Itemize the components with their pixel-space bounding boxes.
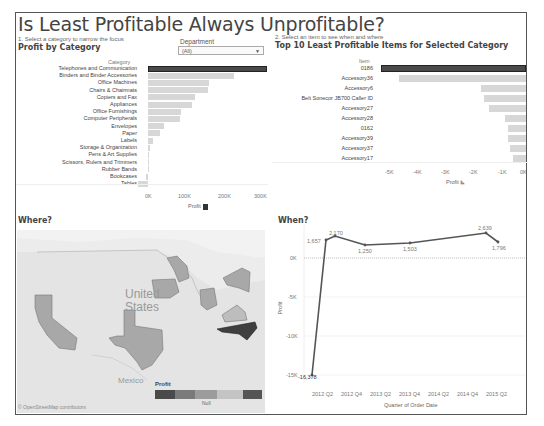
x-axis-title: Quarter of Order Date <box>384 402 438 408</box>
category-bar[interactable] <box>148 152 149 158</box>
x-tick: 2014 Q2 <box>428 391 449 397</box>
sort-descending-icon[interactable]: ⊾ <box>460 179 465 185</box>
category-label[interactable]: Rubber Bands <box>102 166 137 172</box>
category-bar[interactable] <box>148 138 153 144</box>
category-bar[interactable] <box>148 66 267 72</box>
point-label: -16,378 <box>298 374 317 380</box>
step2-instruction: 2. Select an item to see when and where <box>275 34 383 40</box>
item-label[interactable]: 0162 <box>361 125 373 131</box>
profit-map[interactable]: UnitedStates Mexico © OpenStreetMap cont… <box>17 230 265 413</box>
item-label[interactable]: Belt Sonecor JB700 Caller ID <box>301 95 373 101</box>
tick-100k: 100K <box>178 193 191 199</box>
x-tick: 2013 Q2 <box>370 391 391 397</box>
category-label[interactable]: Telephones and Communication <box>58 65 137 71</box>
x-tick: 2012 Q4 <box>341 391 362 397</box>
line-chart-svg <box>278 225 528 413</box>
department-filter-select[interactable]: (All) ▼ <box>178 46 264 55</box>
department-filter-label: Department <box>180 38 214 45</box>
category-bar[interactable] <box>148 130 160 136</box>
category-bar[interactable] <box>146 174 148 180</box>
item-bar[interactable] <box>399 75 526 82</box>
item-label[interactable]: Accessory27 <box>342 105 374 111</box>
category-bar[interactable] <box>148 102 192 108</box>
item-bar[interactable] <box>484 95 526 102</box>
x-axis-title: Profit <box>188 203 208 210</box>
y-axis-title: Profit <box>277 302 283 315</box>
step1-instruction: 1. Select a category to narrow the focus <box>18 36 124 42</box>
category-label[interactable]: Copiers and Fax <box>97 94 137 100</box>
category-bar[interactable] <box>148 166 149 172</box>
us-map-svg <box>17 230 265 413</box>
item-column-header: Item <box>359 58 370 64</box>
category-label[interactable]: Paper <box>122 130 137 136</box>
item-label[interactable]: Accessory28 <box>342 115 374 121</box>
profit-by-category-chart: Category Telephones and CommunicationBin… <box>16 58 268 218</box>
category-label[interactable]: Chairs & Chairmats <box>89 87 137 93</box>
legend-title: Profit <box>155 381 171 387</box>
y-tick-0k: 0K <box>290 255 297 261</box>
category-label[interactable]: Envelopes <box>111 123 137 129</box>
map-attribution[interactable]: © OpenStreetMap contributors <box>18 404 86 410</box>
category-label[interactable]: Labels <box>121 137 137 143</box>
point-label: 2,170 <box>329 230 343 236</box>
category-label[interactable]: Bookcases <box>110 173 137 179</box>
category-bar[interactable] <box>148 80 209 86</box>
profit-by-category-header: Profit by Category <box>18 43 100 52</box>
item-bar[interactable] <box>381 65 526 72</box>
tick-0k: 0K <box>520 169 527 175</box>
x-tick: 2012 Q2 <box>312 391 333 397</box>
axis-divider <box>272 162 528 163</box>
category-label[interactable]: Computer Peripherals <box>84 115 138 121</box>
point-label: 1,657 <box>307 238 321 244</box>
tick-neg3k: -3K <box>441 169 450 175</box>
category-label[interactable]: Pens & Art Supplies <box>88 151 137 157</box>
where-header: Where? <box>18 216 52 225</box>
point-label: 1,503 <box>403 246 417 252</box>
axis-divider <box>16 184 268 185</box>
item-bar[interactable] <box>481 85 526 92</box>
point-label: 2,639 <box>478 225 492 231</box>
mexico-label: Mexico <box>118 376 143 385</box>
chevron-down-icon: ▼ <box>255 47 260 55</box>
y-tick-neg5k: -5K <box>288 294 297 300</box>
legend-null-label: Null <box>202 400 211 406</box>
item-bar[interactable] <box>508 125 526 132</box>
category-bar[interactable] <box>148 116 180 122</box>
point-label: 1,250 <box>358 248 372 254</box>
category-bar[interactable] <box>148 87 208 93</box>
category-label[interactable]: Binders and Binder Accessories <box>59 72 137 78</box>
category-bar[interactable] <box>148 94 195 100</box>
category-bar[interactable] <box>148 123 164 129</box>
item-label[interactable]: Accessory39 <box>342 135 374 141</box>
sort-icon[interactable] <box>203 204 208 210</box>
category-bar[interactable] <box>148 159 149 165</box>
dashboard-title: Is Least Profitable Always Unprofitable? <box>18 13 385 35</box>
category-label[interactable]: Appliances <box>110 101 137 107</box>
category-bar[interactable] <box>148 145 150 151</box>
item-label[interactable]: 0186 <box>361 65 373 71</box>
item-label[interactable]: Accessory17 <box>342 155 374 161</box>
category-label[interactable]: Office Furnishings <box>93 108 137 114</box>
tick-neg4k: -4K <box>413 169 422 175</box>
item-label[interactable]: Accessory6 <box>345 85 373 91</box>
category-label[interactable]: Storage & Organization <box>80 144 137 150</box>
category-bar[interactable] <box>148 73 234 79</box>
category-bar[interactable] <box>148 109 181 115</box>
item-bar[interactable] <box>489 105 526 112</box>
category-label[interactable]: Office Machines <box>98 79 137 85</box>
item-label[interactable]: Accessory37 <box>342 145 374 151</box>
profit-over-time-chart: 1,657 2,170 1,250 1,503 2,639 1,796 -16,… <box>278 225 528 413</box>
item-bar[interactable] <box>508 135 526 142</box>
item-bar[interactable] <box>505 115 526 122</box>
item-bar[interactable] <box>513 155 526 162</box>
tick-neg1k: -1K <box>498 169 507 175</box>
when-header: When? <box>278 216 308 225</box>
tick-300k: 300K <box>254 193 267 199</box>
item-bar[interactable] <box>510 145 526 152</box>
item-label[interactable]: Accessory36 <box>342 75 374 81</box>
x-tick: 2013 Q4 <box>399 391 420 397</box>
tick-neg5k: -5K <box>385 169 394 175</box>
tick-neg2k: -2K <box>469 169 478 175</box>
category-label[interactable]: Scissors, Rulers and Trimmers <box>62 159 137 165</box>
country-label: UnitedStates <box>125 288 160 314</box>
